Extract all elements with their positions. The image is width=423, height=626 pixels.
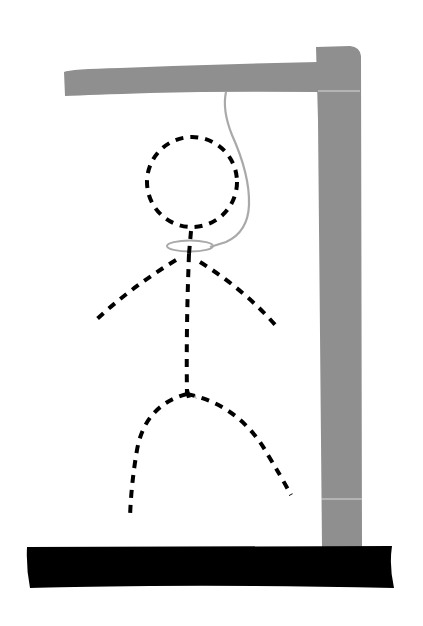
figure-right-arm [200, 262, 277, 327]
figure-neck [189, 231, 191, 254]
figure-right-leg [187, 394, 291, 495]
gallows-post [316, 46, 362, 548]
figure-left-leg [130, 394, 187, 518]
gallows-base [27, 546, 394, 588]
stick-figure [95, 137, 291, 518]
hangman-illustration [0, 0, 423, 626]
gallows-beam [64, 62, 318, 96]
figure-body [187, 254, 189, 394]
figure-left-arm [95, 260, 176, 321]
rope [210, 92, 249, 247]
figure-head [147, 137, 237, 227]
